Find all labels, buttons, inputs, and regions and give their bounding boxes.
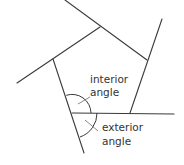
- exterior-label-line2: angle: [102, 135, 131, 147]
- pentagon-angle-diagram: interior angle exterior angle: [0, 0, 184, 165]
- side-top-right-extended: [65, 0, 147, 60]
- exterior-label-line1: exterior: [102, 121, 144, 133]
- exterior-angle-arc: [80, 113, 97, 137]
- side-right-extended: [130, 19, 162, 113]
- diagram-svg: interior angle exterior angle: [0, 0, 184, 165]
- interior-label-line2: angle: [90, 86, 119, 98]
- side-left-extended: [53, 59, 84, 153]
- side-bottom-extended: [72, 113, 174, 114]
- interior-label-line1: interior: [90, 73, 129, 85]
